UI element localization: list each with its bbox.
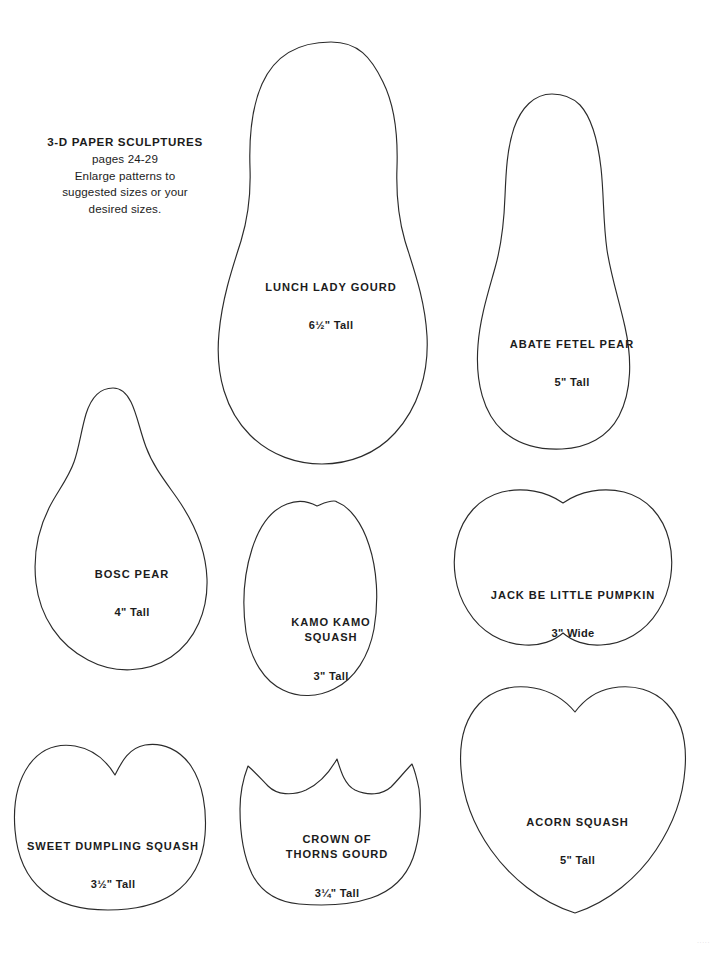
pattern-size-bosc-pear: 4" Tall <box>52 605 212 620</box>
pattern-name-crown-of-thorns-gourd: CROWN OF THORNS GOURD <box>258 832 416 863</box>
caption-jack-be-little-pumpkin: JACK BE LITTLE PUMPKIN 3" Wide <box>473 566 673 664</box>
caption-bosc-pear: BOSC PEAR 4" Tall <box>52 545 212 643</box>
instructions-headline: 3-D PAPER SCULPTURES <box>34 134 216 150</box>
corner-registration-mark: ····· <box>697 939 710 945</box>
pattern-size-acorn-squash: 5" Tall <box>495 853 660 868</box>
caption-abate-fetel-pear: ABATE FETEL PEAR 5" Tall <box>482 315 662 413</box>
caption-sweet-dumpling-squash: SWEET DUMPLING SQUASH 3½" Tall <box>13 817 213 915</box>
pattern-size-lunch-lady-gourd: 6½" Tall <box>241 318 421 333</box>
caption-crown-of-thorns-gourd: CROWN OF THORNS GOURD 3¼" Tall <box>258 810 416 923</box>
pattern-size-sweet-dumpling-squash: 3½" Tall <box>13 877 213 892</box>
pattern-name-jack-be-little-pumpkin: JACK BE LITTLE PUMPKIN <box>473 588 673 603</box>
pattern-size-jack-be-little-pumpkin: 3" Wide <box>473 626 673 641</box>
instructions-block: 3-D PAPER SCULPTURES pages 24-29 Enlarge… <box>34 134 216 217</box>
instructions-body: pages 24-29 Enlarge patterns to suggeste… <box>34 151 216 217</box>
pattern-sheet-page: 3-D PAPER SCULPTURES pages 24-29 Enlarge… <box>0 0 720 953</box>
pattern-size-abate-fetel-pear: 5" Tall <box>482 375 662 390</box>
pattern-size-kamo-kamo-squash: 3" Tall <box>250 669 412 684</box>
pattern-name-kamo-kamo-squash: KAMO KAMO SQUASH <box>250 615 412 646</box>
caption-acorn-squash: ACORN SQUASH 5" Tall <box>495 793 660 891</box>
caption-lunch-lady-gourd: LUNCH LADY GOURD 6½" Tall <box>241 258 421 356</box>
lunch-lady-gourd-outline <box>218 42 427 464</box>
pattern-size-crown-of-thorns-gourd: 3¼" Tall <box>258 886 416 901</box>
pattern-name-sweet-dumpling-squash: SWEET DUMPLING SQUASH <box>13 839 213 854</box>
pattern-name-acorn-squash: ACORN SQUASH <box>495 815 660 830</box>
pattern-name-bosc-pear: BOSC PEAR <box>52 567 212 582</box>
caption-kamo-kamo-squash: KAMO KAMO SQUASH 3" Tall <box>250 593 412 706</box>
pattern-name-abate-fetel-pear: ABATE FETEL PEAR <box>482 337 662 352</box>
pattern-name-lunch-lady-gourd: LUNCH LADY GOURD <box>241 280 421 295</box>
